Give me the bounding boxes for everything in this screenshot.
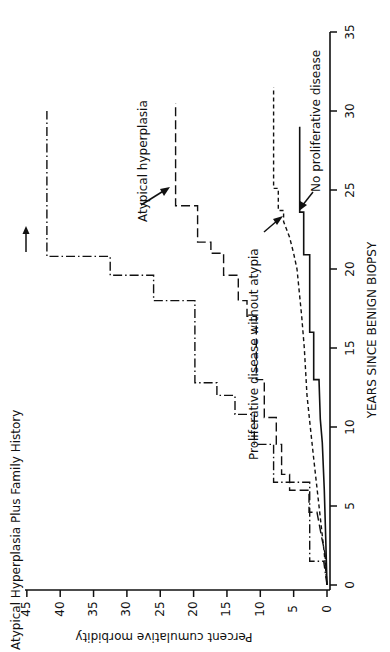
x-axis-label: YEARS SINCE BENIGN BIOPSY	[365, 241, 379, 419]
y-tick-label: 5	[286, 605, 300, 613]
x-tick-label: 30	[343, 103, 357, 118]
y-tick-label: 25	[153, 601, 167, 616]
series-no-proliferative-disease	[300, 127, 327, 585]
x-tick-label: 10	[343, 419, 357, 434]
series-group	[47, 87, 327, 585]
annotation-npd: No proliferative disease	[309, 50, 323, 192]
arrow-npd-icon	[299, 192, 313, 211]
y-tick-label: 35	[86, 601, 100, 616]
series-atypical-hyperplasia-plus-family-history	[47, 111, 327, 585]
x-tick-label: 20	[343, 261, 357, 276]
y-tick-label: 10	[253, 601, 267, 616]
axes: 05101520253035 051015202530354045	[19, 24, 356, 616]
x-tick-label: 25	[343, 182, 357, 197]
x-tick-label: 0	[343, 581, 357, 589]
y-tick-label: 20	[186, 601, 200, 616]
x-tick-label: 15	[343, 340, 357, 355]
annotation-afh: Atypical Hyperplasia Plus Family History	[9, 410, 23, 650]
arrow-pd-icon	[264, 216, 283, 232]
cumulative-morbidity-chart: 05101520253035 051015202530354045 YEARS …	[0, 0, 390, 652]
y-tick-label: 0	[320, 605, 334, 613]
y-axis-label: Percent cumulative morbidity	[75, 630, 252, 644]
arrow-afh-icon	[23, 226, 30, 252]
y-tick-label: 15	[219, 601, 233, 616]
annotation-pd: Proliferative disease without atypia	[247, 248, 261, 460]
y-tick-label: 40	[53, 601, 67, 616]
x-axis-ticks: 05101520253035	[330, 24, 357, 588]
y-axis-ticks: 051015202530354045	[19, 590, 333, 617]
y-tick-label: 30	[119, 601, 133, 616]
x-tick-label: 35	[343, 24, 357, 39]
x-tick-label: 5	[343, 502, 357, 510]
